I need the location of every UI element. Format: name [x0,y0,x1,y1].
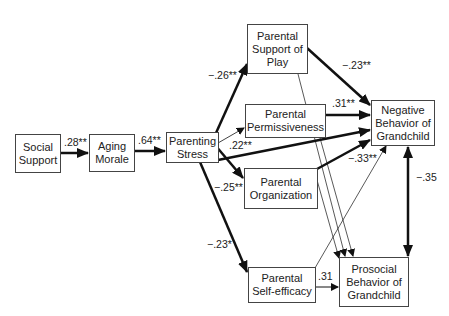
coef-organization-to-negative: −.33** [348,153,377,164]
coef-morale-to-stress: .64** [138,135,161,146]
node-parental-permissiveness: Parental Permissiveness [245,104,326,138]
node-parental-self-efficacy: Parental Self-efficacy [248,267,316,303]
node-parenting-stress: Parenting Stress [166,132,219,163]
coef-stress-to-negative: .22** [229,140,252,151]
coef-selfefficacy-to-prosocial: .31 [318,271,333,282]
node-negative-behavior: Negative Behavior of Grandchild [371,100,435,146]
node-prosocial-behavior: Prosocial Behavior of Grandchild [339,257,409,307]
coef-permissiveness-to-negative: .31** [332,98,355,109]
coef-stress-to-organization: −.25** [214,182,243,193]
coef-stress-to-play: −.26** [208,70,237,81]
arrow-stress-to-selfefficacy [200,162,247,272]
node-social-support: Social Support [15,134,61,173]
node-aging-morale: Aging Morale [89,134,135,172]
node-parental-support-of-play: Parental Support of Play [247,24,308,74]
node-parental-organization: Parental Organization [244,168,318,209]
coef-play-to-negative: −.23** [342,60,371,71]
coef-social-to-morale: .28** [64,137,87,148]
coef-stress-to-selfefficacy: −.23* [207,239,232,250]
coef-negative-prosocial-covariance: −.35 [416,172,437,183]
